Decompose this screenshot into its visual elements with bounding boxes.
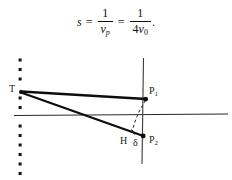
- label-point-p2: P2: [149, 135, 158, 147]
- vertical-axis: [142, 58, 144, 164]
- label-p1-subscript: 1: [155, 90, 159, 98]
- point-marker-p1: [143, 97, 148, 102]
- label-point-p1: P1: [149, 86, 158, 98]
- label-foot-h: H: [120, 136, 127, 146]
- label-delta: δ: [133, 138, 138, 148]
- dotted-vertical-line: [19, 59, 22, 176]
- horizontal-axis: [14, 114, 228, 116]
- ray-geometry-diagram: T P1 P2 H δ: [0, 0, 232, 180]
- label-source-t: T: [9, 84, 15, 94]
- figure-canvas: s=1vp=14v0.: [0, 0, 232, 180]
- dashed-arc-p1-to-h: [133, 101, 146, 132]
- ray-t-to-p1: [21, 92, 146, 100]
- point-marker-t: [19, 90, 23, 94]
- point-marker-p2: [141, 134, 146, 139]
- label-p2-subscript: 2: [155, 139, 159, 147]
